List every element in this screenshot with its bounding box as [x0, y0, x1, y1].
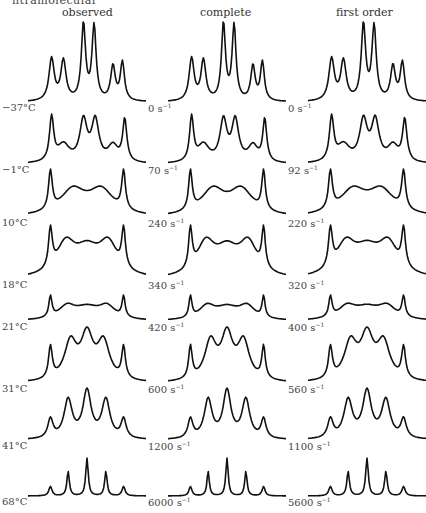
label-observed-row-6: 31°C — [2, 383, 27, 394]
column-header-first-order: first order — [336, 6, 393, 19]
spectrum-complete-row-5 — [168, 293, 286, 321]
spectrum-complete-row-1 — [168, 20, 286, 102]
spectrum-complete-row-4 — [168, 223, 286, 279]
spectrum-first-order-row-2 — [308, 112, 426, 164]
spectrum-complete-row-6 — [168, 325, 286, 383]
spectrum-observed-row-6 — [28, 325, 146, 383]
spectrum-observed-row-3 — [28, 167, 146, 217]
label-complete-row-7: 1200 s−1 — [148, 440, 191, 452]
spectrum-complete-row-2 — [168, 112, 286, 164]
spectrum-first-order-row-5 — [308, 293, 426, 321]
label-first-order-row-8: 5600 s−1 — [288, 496, 331, 508]
label-observed-row-2: −1°C — [2, 164, 29, 175]
spectrum-observed-row-4 — [28, 223, 146, 279]
spectrum-observed-row-2 — [28, 112, 146, 164]
spectrum-first-order-row-3 — [308, 167, 426, 217]
label-complete-row-8: 6000 s−1 — [148, 496, 191, 508]
spectrum-first-order-row-7 — [308, 386, 426, 440]
spectrum-complete-row-7 — [168, 386, 286, 440]
spectrum-observed-row-8 — [28, 456, 146, 496]
column-header-complete: complete — [200, 6, 251, 19]
label-complete-row-4: 340 s−1 — [148, 279, 184, 291]
spectrum-observed-row-7 — [28, 386, 146, 440]
column-header-observed: observed — [62, 6, 113, 19]
spectrum-first-order-row-4 — [308, 223, 426, 279]
spectrum-first-order-row-8 — [308, 456, 426, 496]
spectrum-first-order-row-1 — [308, 20, 426, 102]
spectrum-observed-row-1 — [28, 20, 146, 102]
label-observed-row-4: 18°C — [2, 279, 27, 290]
label-observed-row-5: 21°C — [2, 321, 27, 332]
label-first-order-row-4: 320 s−1 — [288, 279, 324, 291]
spectrum-complete-row-8 — [168, 456, 286, 496]
label-observed-row-3: 10°C — [2, 217, 27, 228]
spectrum-first-order-row-6 — [308, 325, 426, 383]
label-observed-row-7: 41°C — [2, 440, 27, 451]
spectrum-observed-row-5 — [28, 293, 146, 321]
label-first-order-row-7: 1100 s−1 — [288, 440, 331, 452]
spectrum-complete-row-3 — [168, 167, 286, 217]
label-observed-row-8: 68°C — [2, 496, 27, 507]
